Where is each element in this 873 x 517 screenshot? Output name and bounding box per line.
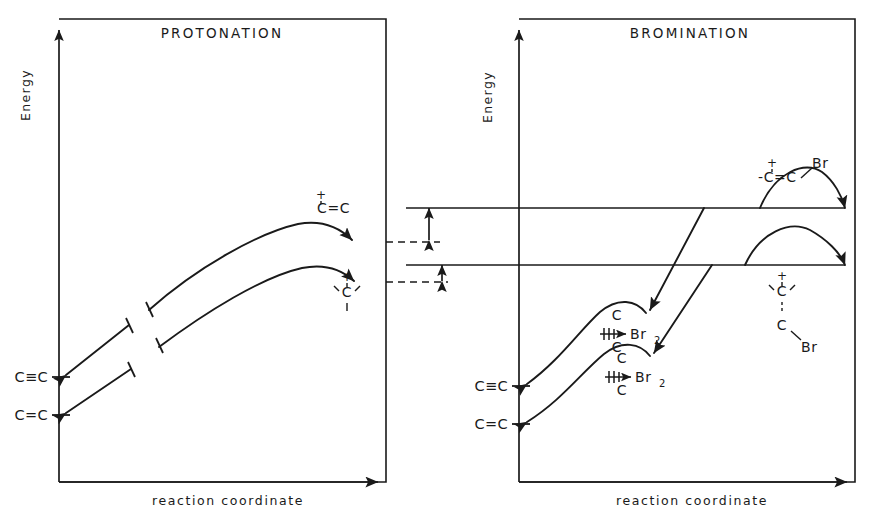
protonation-x-axis-label: reaction coordinate [152, 493, 304, 508]
reaction-energy-diagram: PROTONATION Energy reaction coordinate C… [0, 0, 873, 517]
panel-protonation: PROTONATION Energy reaction coordinate C… [14, 19, 386, 508]
bromination-alkene-rise-to-plateau [654, 265, 712, 353]
bond-upleft-2-icon [769, 285, 774, 290]
bromination-alkyne-pi-complex-label: C C Br 2 [600, 307, 660, 355]
figure-canvas: PROTONATION Energy reaction coordinate C… [0, 0, 873, 517]
protonation-ts-carbocation-charge: + [342, 270, 352, 284]
bromination-title: BROMINATION [630, 25, 750, 41]
bromination-ts-bromovinyl-text: -C=C [758, 169, 797, 185]
bromination-ts-bromocarb-middle-c: C [777, 317, 787, 333]
bond-c-to-br-icon [791, 331, 801, 340]
bromination-alkyne-rise-to-plateau [650, 208, 704, 310]
bond-upright-icon [355, 286, 360, 291]
pi-complex-alkyne-top-c: C [612, 307, 622, 323]
bromination-ts-bromovinyl-br: Br [812, 155, 829, 171]
bromination-ts-bromocarb-br: Br [801, 339, 818, 355]
bromination-reactant-label-alkyne: C≡C [474, 378, 508, 394]
bromination-frame [519, 19, 855, 482]
bromination-ts-label-bromocarbocation: C + C Br [769, 269, 818, 355]
bromination-reactant-label-alkene: C=C [474, 416, 508, 432]
bond-upright-2-icon [790, 285, 795, 290]
pi-complex-alkyne-reagent-sub: 2 [654, 335, 660, 346]
bond-upleft-icon [334, 286, 339, 291]
pi-complex-alkene-reagent: Br [635, 369, 652, 385]
protonation-reactant-label-alkyne: C≡C [14, 369, 48, 385]
bromination-ts-bromocarb-charge: + [777, 269, 787, 283]
protonation-frame [59, 19, 386, 482]
bromination-alkyne-well-curve [527, 302, 646, 384]
bromination-alkene-pi-complex-label: C C Br 2 [605, 350, 665, 398]
pi-complex-alkene-bottom-c: C [617, 382, 627, 398]
protonation-alkene-segment-1 [66, 369, 131, 413]
protonation-y-axis-label: Energy [18, 69, 33, 121]
panel-bromination: BROMINATION Energy reaction coordinate C… [406, 19, 855, 508]
bromination-ts-bromovinyl-charge: + [767, 156, 777, 170]
pi-complex-alkene-reagent-sub: 2 [659, 378, 665, 389]
bromination-alkene-well-curve [527, 345, 650, 422]
bromination-x-axis-label: reaction coordinate [616, 493, 768, 508]
protonation-alkyne-segment-1 [66, 325, 129, 375]
protonation-ts-vinyl-text: C=C [317, 200, 350, 216]
protonation-reactant-label-alkene: C=C [14, 407, 48, 423]
pi-complex-alkene-top-c: C [617, 350, 627, 366]
bromination-ts-label-bromovinyl-cation: -C=C + Br [758, 155, 829, 185]
bromination-y-axis-label: Energy [480, 71, 495, 123]
protonation-title: PROTONATION [161, 25, 283, 41]
protonation-ts-label-vinyl-cation: C=C + [316, 188, 350, 216]
protonation-ts-vinyl-charge: + [316, 188, 326, 202]
protonation-ts-label-carbocation: C + [334, 270, 360, 311]
bond-to-br-icon [801, 168, 812, 178]
pi-complex-alkyne-reagent: Br [630, 326, 647, 342]
energy-gap-group [386, 208, 448, 282]
bromination-alkene-barrier-hump [745, 227, 845, 265]
